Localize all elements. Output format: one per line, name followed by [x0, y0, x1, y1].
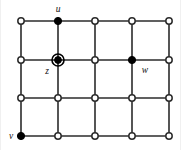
labels-layer: uzwv — [9, 4, 149, 141]
vertex-open-r1c3[interactable] — [92, 18, 98, 24]
vertex-open-r3c5[interactable] — [166, 95, 172, 101]
vertex-filled-r4c1[interactable] — [17, 132, 24, 139]
vertex-open-r3c2[interactable] — [55, 95, 61, 101]
vertex-open-r2c3[interactable] — [92, 57, 98, 63]
vertex-open-r4c5[interactable] — [166, 133, 172, 139]
vertex-filled-r1c2[interactable] — [54, 17, 61, 24]
figure-root: uzwv — [0, 0, 181, 150]
vertex-open-r1c4[interactable] — [129, 18, 135, 24]
vertex-open-r3c1[interactable] — [18, 95, 24, 101]
vertex-label-z: z — [44, 66, 49, 76]
vertex-label-w: w — [142, 65, 149, 75]
vertex-open-r1c1[interactable] — [18, 18, 24, 24]
vertex-label-u: u — [56, 4, 61, 14]
grid-graph-svg: uzwv — [0, 0, 181, 150]
vertex-open-r4c2[interactable] — [55, 133, 61, 139]
vertex-open-r2c1[interactable] — [18, 57, 24, 63]
vertex-label-v: v — [9, 131, 14, 141]
edges-layer — [21, 21, 169, 136]
vertex-ringed-r2c2[interactable] — [55, 57, 62, 64]
vertex-open-r4c4[interactable] — [129, 133, 135, 139]
vertex-open-r1c5[interactable] — [166, 18, 172, 24]
vertex-open-r2c5[interactable] — [166, 57, 172, 63]
vertex-open-r3c3[interactable] — [92, 95, 98, 101]
vertex-filled-r2c4[interactable] — [128, 56, 135, 63]
vertex-open-r4c3[interactable] — [92, 133, 98, 139]
vertex-open-r3c4[interactable] — [129, 95, 135, 101]
